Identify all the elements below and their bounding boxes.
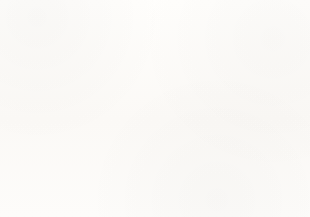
value-label-asian-american: $64,308 xyxy=(13,11,48,22)
category-label-hispanic-american: Hispanic American xyxy=(153,184,225,209)
x-axis-line xyxy=(5,177,305,179)
category-label-line2: American xyxy=(226,197,298,210)
value-label-black-american: $32,068 xyxy=(234,89,269,100)
bar-hispanic-american[interactable] xyxy=(163,88,215,177)
bar-side-face xyxy=(209,88,215,177)
bar-side-face xyxy=(282,105,288,177)
category-label-white-non-hispanic: White, non-Hispanic xyxy=(80,184,152,209)
category-label-line1: Black xyxy=(226,184,298,197)
category-label-line2: American xyxy=(8,197,80,210)
category-label-line2: non-Hispanic xyxy=(80,197,152,210)
bar-side-face xyxy=(136,51,142,177)
bar-side-face xyxy=(64,27,70,177)
bar-front-face xyxy=(90,51,142,177)
bar-front-face xyxy=(163,88,215,177)
bar-front-face xyxy=(18,27,70,177)
bar-white-non-hispanic[interactable] xyxy=(90,51,142,177)
category-label-asian-american: Asian American xyxy=(8,184,80,209)
category-label-line1: Hispanic xyxy=(153,184,225,197)
value-label-hispanic-american: $37,708 xyxy=(161,72,196,83)
category-label-line2: American xyxy=(153,197,225,210)
category-label-line1: White, xyxy=(80,184,152,197)
category-label-black-american: Black American xyxy=(226,184,298,209)
bar-black-american[interactable] xyxy=(236,105,288,177)
bar-front-face xyxy=(236,105,288,177)
bar-asian-american[interactable] xyxy=(18,27,70,177)
category-label-line1: Asian xyxy=(8,184,80,197)
value-label-white-non-hispanic: $54,620 xyxy=(88,35,123,46)
bar-chart: Annual family income $64,308 $54,620 $37… xyxy=(0,0,310,217)
